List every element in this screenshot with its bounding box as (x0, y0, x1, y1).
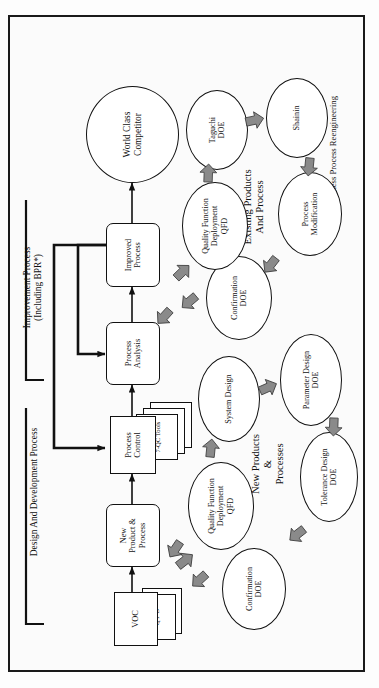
tool-node-shainin[interactable]: Shainin (266, 78, 328, 158)
tool-node-process-modification[interactable]: Process Modification (278, 172, 342, 256)
group-title-new-products-processes: New Products & Processes (250, 408, 286, 520)
tool-node-parameter-design-doe[interactable]: Parameter Design DOE (280, 334, 342, 426)
process-box-new-product-process[interactable]: New Product & Process (106, 504, 160, 567)
group-title-existing-products-process: Existing Products And Process (242, 148, 266, 266)
feedback-loop-outer (54, 245, 110, 448)
diagram-canvas: 7-MP Tools Q F D VOC New Product & Proce… (10, 17, 363, 670)
diagram-frame: 7-MP Tools Q F D VOC New Product & Proce… (8, 15, 365, 672)
tool-node-confirmation-doe-new[interactable]: Confirmation DOE (222, 548, 286, 630)
process-box-process-analysis[interactable]: Process Analysis (106, 322, 160, 385)
process-box-process-control[interactable]: Process Control (110, 416, 156, 474)
phase-label-improvement: Improvement Process (Including BPR*) (22, 205, 44, 370)
tool-node-tolerance-design-doe[interactable]: Tolerance Design DOE (300, 432, 358, 522)
tool-node-qfd-existing[interactable]: Quality Function Deployment QFD (182, 182, 248, 270)
process-box-voc[interactable]: VOC (114, 592, 158, 646)
phase-label-design: Design And Development Process (29, 392, 40, 592)
tool-node-system-design[interactable]: System Design (198, 356, 260, 442)
tool-node-taguchi-doe[interactable]: Taguchi DOE (186, 90, 248, 170)
tool-node-qfd-new[interactable]: Quality Function Deployment QFD (188, 462, 254, 550)
figure-page: 7-MP Tools Q F D VOC New Product & Proce… (0, 0, 379, 688)
process-box-improved-process[interactable]: Improved Process (106, 223, 160, 287)
outcome-node-world-class-competitor[interactable]: World Class Competitor (86, 86, 179, 183)
